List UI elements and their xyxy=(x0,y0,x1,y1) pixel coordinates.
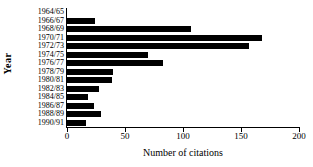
bar-row xyxy=(67,68,299,77)
x-axis-tick-label: 150 xyxy=(234,132,248,141)
x-axis-tick-label: 50 xyxy=(121,132,130,141)
y-axis-title-text: Year xyxy=(2,53,13,75)
bar xyxy=(67,111,101,117)
y-axis-tick-label: 1990/91 xyxy=(14,119,66,128)
x-axis-title: Number of citations xyxy=(67,147,299,158)
bar xyxy=(67,52,148,58)
bar-row xyxy=(67,42,299,51)
bar-row xyxy=(67,85,299,94)
bar-row xyxy=(67,17,299,26)
bar-row xyxy=(67,59,299,68)
bar-row xyxy=(67,110,299,119)
bar xyxy=(67,120,86,126)
y-axis-title: Year xyxy=(0,0,14,127)
bar-row xyxy=(67,119,299,128)
bar-series xyxy=(67,8,299,127)
bar xyxy=(67,43,249,49)
bar xyxy=(67,86,99,92)
x-axis-tick-label: 200 xyxy=(292,132,306,141)
bar xyxy=(67,26,191,32)
bar xyxy=(67,94,88,100)
bar-row xyxy=(67,51,299,60)
x-axis-tick-label: 100 xyxy=(176,132,190,141)
bar-row xyxy=(67,34,299,43)
bar-row xyxy=(67,25,299,34)
citations-bar-chart: Year 1964/651966/671968/691970/711972/73… xyxy=(0,0,313,167)
bar xyxy=(67,69,113,75)
bar xyxy=(67,35,262,41)
plot-area xyxy=(67,8,299,127)
x-axis-tick-label: 0 xyxy=(65,132,70,141)
bar xyxy=(67,77,112,83)
bar-row xyxy=(67,93,299,102)
bar xyxy=(67,60,163,66)
bar-row xyxy=(67,8,299,17)
bar-row xyxy=(67,76,299,85)
bar xyxy=(67,103,94,109)
bar xyxy=(67,18,95,24)
bar-row xyxy=(67,102,299,111)
y-axis-tick-labels: 1964/651966/671968/691970/711972/731974/… xyxy=(14,8,66,127)
